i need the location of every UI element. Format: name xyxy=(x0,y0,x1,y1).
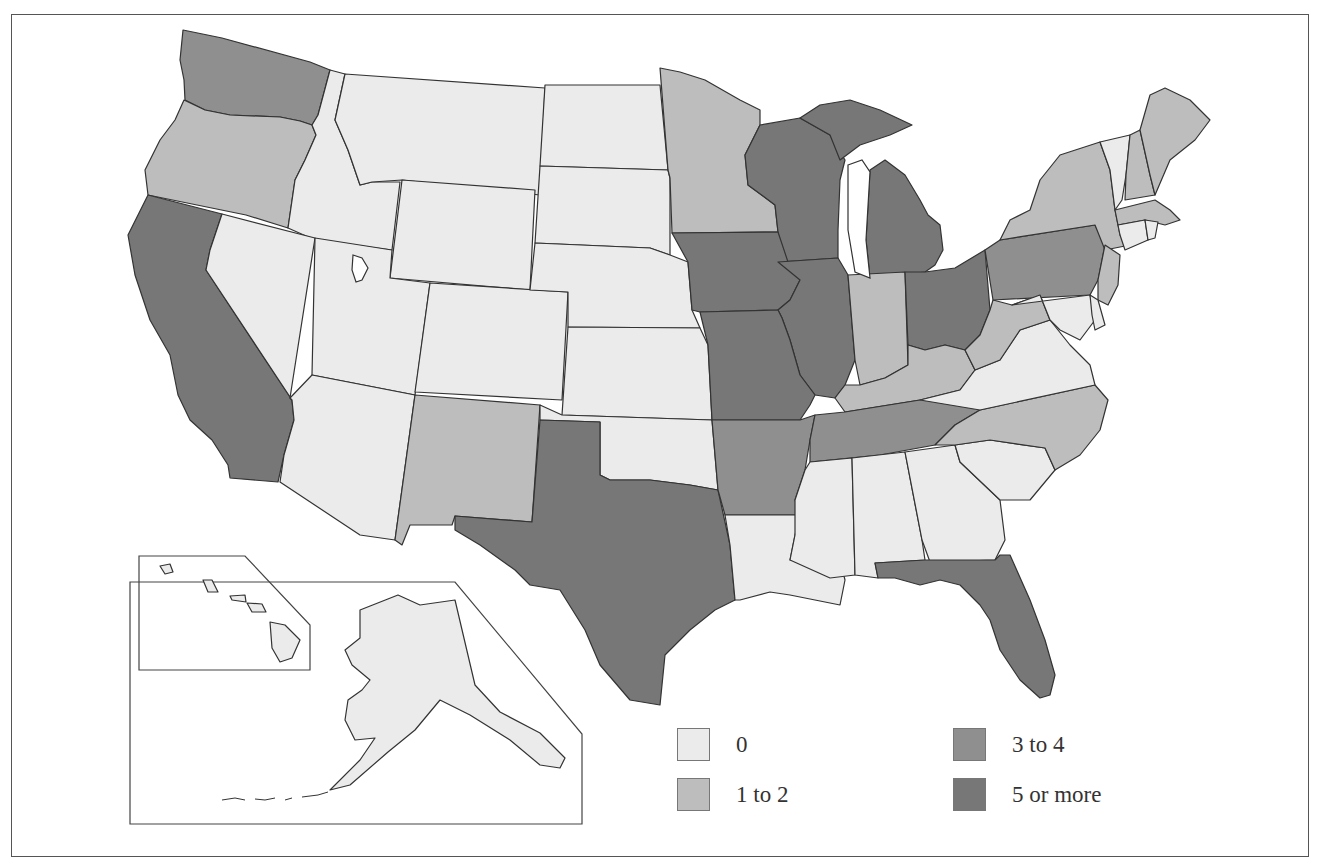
state-indiana xyxy=(848,272,908,385)
state-wyoming xyxy=(390,180,535,290)
legend: 0 1 to 2 3 to 4 5 or more xyxy=(677,728,1137,818)
legend-label-0: 0 xyxy=(736,732,748,758)
legend-item-3-to-4: 3 to 4 xyxy=(953,728,1064,761)
legend-swatch-1-to-2 xyxy=(677,778,710,811)
state-maine xyxy=(1140,88,1210,195)
legend-swatch-5-or-more xyxy=(953,778,986,811)
legend-swatch-3-to-4 xyxy=(953,728,986,761)
state-michigan-lower xyxy=(866,160,943,278)
state-montana xyxy=(335,74,545,195)
state-south-dakota xyxy=(535,166,670,255)
state-north-dakota xyxy=(540,85,668,170)
legend-label-3-to-4: 3 to 4 xyxy=(1012,732,1064,758)
state-colorado xyxy=(415,283,568,400)
state-florida xyxy=(875,555,1055,698)
state-kansas xyxy=(562,327,712,420)
lake-michigan xyxy=(848,160,870,278)
state-rhode-island xyxy=(1145,220,1158,240)
state-arizona xyxy=(280,375,415,540)
state-alaska xyxy=(330,595,565,790)
legend-item-1-to-2: 1 to 2 xyxy=(677,778,788,811)
legend-swatch-0 xyxy=(677,728,710,761)
legend-item-0: 0 xyxy=(677,728,748,761)
legend-label-1-to-2: 1 to 2 xyxy=(736,782,788,808)
state-iowa xyxy=(672,232,800,312)
legend-item-5-or-more: 5 or more xyxy=(953,778,1101,811)
legend-label-5-or-more: 5 or more xyxy=(1012,782,1101,808)
state-hawaii xyxy=(160,564,300,662)
aleutian-islands xyxy=(222,792,328,800)
